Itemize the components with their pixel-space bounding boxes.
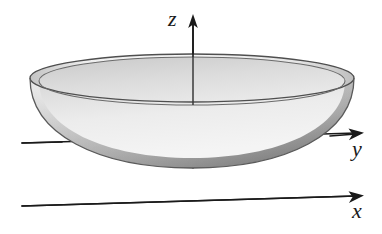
y-axis-rear-line bbox=[22, 142, 62, 143]
x-axis-label: x bbox=[352, 200, 362, 222]
y-axis-label: y bbox=[352, 138, 362, 160]
z-axis-label: z bbox=[168, 8, 177, 30]
x-axis-front-line bbox=[22, 196, 356, 206]
figure-canvas: z y x bbox=[0, 0, 382, 234]
bowl-surface-group bbox=[30, 54, 354, 168]
bowl-diagram-svg bbox=[0, 0, 382, 234]
